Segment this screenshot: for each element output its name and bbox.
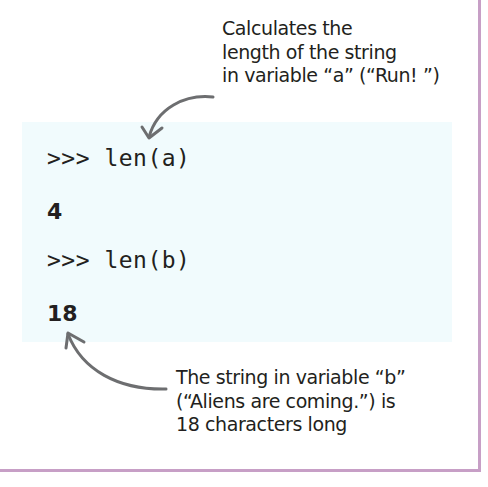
curved-arrow-up-left-icon: [66, 333, 166, 389]
curved-arrow-down-left-icon: [142, 97, 213, 138]
annotation-arrows: [0, 0, 488, 487]
